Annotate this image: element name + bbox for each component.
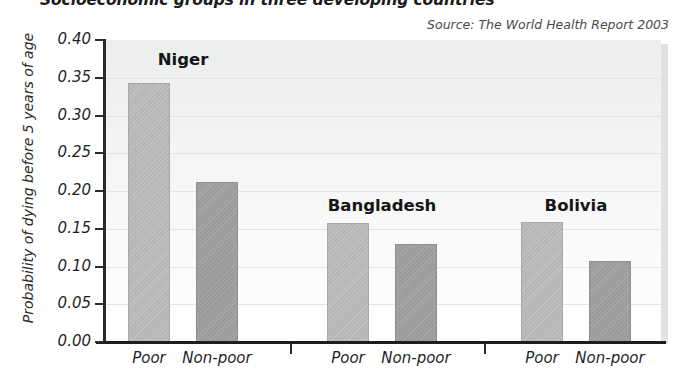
x-axis-label-nonpoor: Non-poor <box>361 349 471 367</box>
y-axis-tick-label: 0.10 <box>46 257 91 275</box>
gridline <box>104 153 661 154</box>
page-shadow <box>661 44 668 344</box>
gridline <box>104 116 661 117</box>
y-axis-tick <box>95 152 104 154</box>
bar-bolivia-nonpoor <box>589 261 631 342</box>
gridline <box>104 191 661 192</box>
y-axis-tick <box>95 190 104 192</box>
y-axis-tick <box>95 341 104 343</box>
y-axis-tick-label: 0.25 <box>46 143 91 161</box>
bar-niger-nonpoor <box>196 182 238 342</box>
y-axis-tick-label: 0.05 <box>46 294 91 312</box>
y-axis-tick-label: 0.30 <box>46 106 91 124</box>
chart-figure: Socioeconomic groups in three developing… <box>0 0 679 373</box>
y-axis-tick <box>95 266 104 268</box>
y-axis-tick-label: 0.15 <box>46 219 91 237</box>
x-axis-line <box>96 341 666 344</box>
gridline <box>104 304 661 305</box>
x-axis-label-nonpoor: Non-poor <box>162 349 272 367</box>
x-axis-group-separator <box>484 343 486 354</box>
group-label-bangladesh: Bangladesh <box>292 196 472 215</box>
gridline <box>104 78 661 79</box>
y-axis-tick <box>95 39 104 41</box>
group-label-niger: Niger <box>93 50 273 69</box>
y-axis-tick <box>95 303 104 305</box>
y-axis-tick <box>95 115 104 117</box>
gridline <box>104 267 661 268</box>
y-axis-tick-label: 0.35 <box>46 68 91 86</box>
chart-title: Socioeconomic groups in three developing… <box>40 0 640 9</box>
bar-bangladesh-nonpoor <box>395 244 437 342</box>
x-axis-group-separator <box>290 343 292 354</box>
bar-bangladesh-poor <box>327 223 369 342</box>
gridline <box>104 229 661 230</box>
y-axis-tick <box>95 77 104 79</box>
plot-area <box>104 40 661 342</box>
y-axis-tick-label: 0.00 <box>46 332 91 350</box>
y-axis-title: Probability of dying before 5 years of a… <box>20 13 36 343</box>
group-label-bolivia: Bolivia <box>486 196 666 215</box>
y-axis-tick-label: 0.20 <box>46 181 91 199</box>
source-note: Source: The World Health Report 2003 <box>427 17 669 32</box>
x-axis-label-nonpoor: Non-poor <box>555 349 665 367</box>
y-axis-tick-label: 0.40 <box>46 30 91 48</box>
bar-niger-poor <box>128 83 170 342</box>
bar-bolivia-poor <box>521 222 563 342</box>
y-axis-tick <box>95 228 104 230</box>
